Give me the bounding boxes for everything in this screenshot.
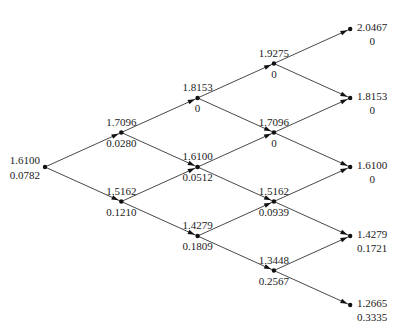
- node-value-label: 0: [369, 104, 375, 116]
- tree-node-n4_1: 1.81530: [348, 90, 388, 116]
- tree-node-n3_1: 1.70960: [259, 116, 290, 149]
- tree-node-n3_0: 1.92750: [259, 47, 290, 80]
- node-dot: [272, 61, 276, 65]
- tree-node-n3_3: 1.34480.2567: [259, 254, 290, 287]
- node-price-label: 1.5162: [106, 185, 136, 197]
- node-price-label: 1.8153: [357, 90, 388, 102]
- tree-node-n2_2: 1.42790.1809: [182, 219, 213, 252]
- node-dot: [272, 268, 276, 272]
- arrowhead-icon: [340, 230, 347, 235]
- node-price-label: 1.3448: [259, 254, 290, 266]
- node-value-label: 0.0280: [106, 137, 137, 149]
- node-dot: [348, 234, 352, 238]
- node-dot: [348, 96, 352, 100]
- node-value-label: 0.3335: [357, 311, 388, 323]
- node-value-label: 0: [369, 35, 375, 47]
- arrowhead-icon: [340, 168, 347, 173]
- node-dot: [348, 165, 352, 169]
- arrowhead-icon: [187, 99, 194, 104]
- arrowhead-icon: [264, 134, 271, 139]
- node-value-label: 0.2567: [259, 275, 290, 287]
- node-value-label: 0: [369, 173, 375, 185]
- node-price-label: 1.6100: [10, 154, 41, 166]
- node-dot: [119, 130, 123, 134]
- tree-node-n2_0: 1.81530: [182, 81, 213, 114]
- node-value-label: 0: [271, 137, 277, 149]
- arrowhead-icon: [340, 161, 347, 166]
- node-price-label: 1.8153: [182, 81, 213, 93]
- arrowhead-icon: [340, 92, 347, 97]
- node-price-label: 1.4279: [182, 219, 213, 231]
- tree-node-n3_2: 1.51620.0939: [259, 185, 290, 218]
- node-dot: [348, 27, 352, 31]
- binomial-tree-diagram: 1.61000.07821.70960.02801.51620.12101.81…: [0, 0, 399, 335]
- node-value-label: 0.1809: [182, 240, 213, 252]
- tree-node-n2_1: 1.61000.0512: [182, 150, 213, 183]
- node-price-label: 1.5162: [259, 185, 289, 197]
- tree-node-n4_2: 1.61000: [348, 159, 388, 185]
- arrowhead-icon: [340, 30, 347, 35]
- node-price-label: 1.6100: [357, 159, 388, 171]
- node-price-label: 1.9275: [259, 47, 290, 59]
- arrowhead-icon: [340, 237, 347, 242]
- tree-node-n4_0: 2.04670: [348, 21, 388, 47]
- tree-node-n1_0: 1.70960.0280: [106, 116, 137, 149]
- node-dot: [272, 130, 276, 134]
- node-price-label: 2.0467: [357, 21, 388, 33]
- node-value-label: 0: [271, 68, 277, 80]
- node-value-label: 0.0939: [259, 206, 290, 218]
- node-dot: [195, 165, 199, 169]
- node-dot: [43, 165, 47, 169]
- node-value-label: 0.0782: [10, 169, 40, 181]
- node-dot: [195, 96, 199, 100]
- arrowhead-icon: [340, 299, 347, 304]
- node-value-label: 0: [195, 102, 201, 114]
- node-value-label: 0.0512: [182, 171, 212, 183]
- tree-node-n4_4: 1.26650.3335: [348, 297, 388, 323]
- tree-node-n4_3: 1.42790.1721: [348, 228, 388, 254]
- node-dot: [272, 199, 276, 203]
- node-price-label: 1.2665: [357, 297, 388, 309]
- arrowhead-icon: [264, 65, 271, 70]
- tree-nodes: 1.61000.07821.70960.02801.51620.12101.81…: [10, 21, 388, 323]
- tree-edge: [274, 64, 350, 99]
- node-dot: [348, 303, 352, 307]
- node-price-label: 1.7096: [259, 116, 290, 128]
- node-price-label: 1.4279: [357, 228, 388, 240]
- node-price-label: 1.7096: [106, 116, 137, 128]
- tree-node-n0_0: 1.61000.0782: [10, 154, 47, 181]
- node-value-label: 0.1210: [106, 206, 137, 218]
- arrowhead-icon: [340, 99, 347, 104]
- tree-node-n1_1: 1.51620.1210: [106, 185, 137, 218]
- node-dot: [119, 199, 123, 203]
- node-dot: [195, 234, 199, 238]
- node-value-label: 0.1721: [357, 242, 387, 254]
- tree-edge: [274, 133, 350, 168]
- node-price-label: 1.6100: [182, 150, 213, 162]
